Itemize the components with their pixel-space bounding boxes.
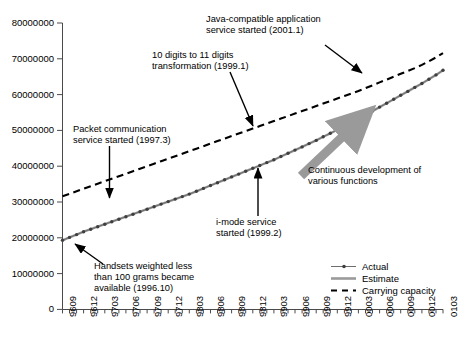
data-point <box>159 202 162 205</box>
xtick-label: 9612 <box>88 296 99 317</box>
annotation-line: 10 digits to 11 digits <box>152 50 233 60</box>
xtick-label: 9712 <box>173 296 184 317</box>
data-point <box>406 90 409 93</box>
ytick-label: 80000000 <box>0 17 54 28</box>
xtick-label: 9803 <box>194 296 205 317</box>
data-point <box>307 142 310 145</box>
data-point <box>378 105 381 108</box>
data-point <box>131 213 134 216</box>
xtick-label: 0003 <box>363 296 374 317</box>
series-estimate <box>63 70 444 240</box>
xtick-label: 9906 <box>300 296 311 317</box>
data-point <box>420 82 423 85</box>
data-point <box>96 225 99 228</box>
ytick-label: 20000000 <box>0 232 54 243</box>
data-point <box>195 190 198 193</box>
data-point <box>315 139 318 142</box>
ytick-label: 40000000 <box>0 160 54 171</box>
ytick-label: 50000000 <box>0 124 54 135</box>
xtick-label: 9703 <box>109 296 120 317</box>
data-point <box>167 200 170 203</box>
xtick-label: 9706 <box>130 296 141 317</box>
annotation-line: transformation (1999.1) <box>152 61 249 71</box>
data-point <box>202 187 205 190</box>
annotation-line: Packet communication <box>73 124 167 134</box>
data-point <box>61 239 64 242</box>
data-point <box>223 178 226 181</box>
data-point <box>124 215 127 218</box>
data-point <box>145 208 148 211</box>
data-point <box>322 135 325 138</box>
data-point <box>357 117 360 120</box>
annotation-ten-to-eleven-digits: 10 digits to 11 digitstransformation (19… <box>152 50 249 72</box>
data-point <box>258 164 261 167</box>
data-point <box>75 233 78 236</box>
data-point <box>251 167 254 170</box>
xtick-label: 9912 <box>342 296 353 317</box>
data-point <box>413 86 416 89</box>
annotation-line: Java-compatible application <box>206 14 321 24</box>
xtick-label: 0009 <box>405 296 416 317</box>
xtick-label: 9709 <box>152 296 163 317</box>
y-axis-ticks <box>57 23 63 309</box>
data-point <box>244 170 247 173</box>
legend-label-carrying-capacity: Carrying capacity <box>362 285 435 296</box>
data-point <box>89 228 92 231</box>
annotation-line: service started (2001.1) <box>206 25 304 35</box>
data-point <box>181 195 184 198</box>
xtick-label: 9809 <box>236 296 247 317</box>
annotation-line: available (1996.10) <box>94 283 173 293</box>
data-point <box>293 148 296 151</box>
data-point <box>209 184 212 187</box>
data-point <box>434 73 437 76</box>
ytick-label: 0 <box>0 303 54 314</box>
annotation-line: started (1999.2) <box>216 228 282 238</box>
data-point <box>68 236 71 239</box>
xtick-label: 9806 <box>215 296 226 317</box>
data-point <box>237 172 240 175</box>
annotation-line: Continuous development of <box>308 165 421 175</box>
xtick-label: 9609 <box>67 296 78 317</box>
xtick-label: 0012 <box>426 296 437 317</box>
data-point <box>371 109 374 112</box>
data-point <box>82 230 85 233</box>
data-point <box>152 205 155 208</box>
data-point <box>286 152 289 155</box>
annotation-line: than 100 grams became <box>94 272 194 282</box>
data-point <box>216 181 219 184</box>
legend-keys <box>331 265 356 291</box>
data-point <box>103 223 106 226</box>
ytick-label: 70000000 <box>0 53 54 64</box>
data-point <box>385 102 388 105</box>
xtick-label: 0103 <box>448 296 459 317</box>
legend-marker-actual <box>342 265 346 269</box>
arrow-java-compatible <box>325 45 362 73</box>
data-point <box>188 192 191 195</box>
data-point <box>300 145 303 148</box>
data-point <box>441 69 444 72</box>
data-point <box>110 220 113 223</box>
data-point <box>364 113 367 116</box>
xtick-label: 9903 <box>278 296 289 317</box>
xtick-label: 0006 <box>384 296 395 317</box>
data-point <box>117 218 120 221</box>
data-point <box>138 210 141 213</box>
ytick-label: 10000000 <box>0 268 54 279</box>
legend-label-actual: Actual <box>362 261 388 272</box>
data-point <box>174 197 177 200</box>
data-point <box>399 94 402 97</box>
data-point <box>336 128 339 131</box>
data-point <box>230 175 233 178</box>
annotation-line: i-mode service <box>216 217 276 227</box>
ytick-label: 30000000 <box>0 196 54 207</box>
data-point <box>265 161 268 164</box>
annotation-continuous-development: Continuous development ofvarious functio… <box>308 165 421 187</box>
arrow-ten-to-eleven-digits <box>230 72 253 126</box>
xtick-label: 9909 <box>321 296 332 317</box>
annotation-handsets-weighted-less: Handsets weighted lessthan 100 grams bec… <box>94 261 194 295</box>
series-actual <box>63 70 444 240</box>
series-actual-markers <box>61 69 445 242</box>
data-point <box>427 78 430 81</box>
annotation-line: various functions <box>308 176 378 186</box>
